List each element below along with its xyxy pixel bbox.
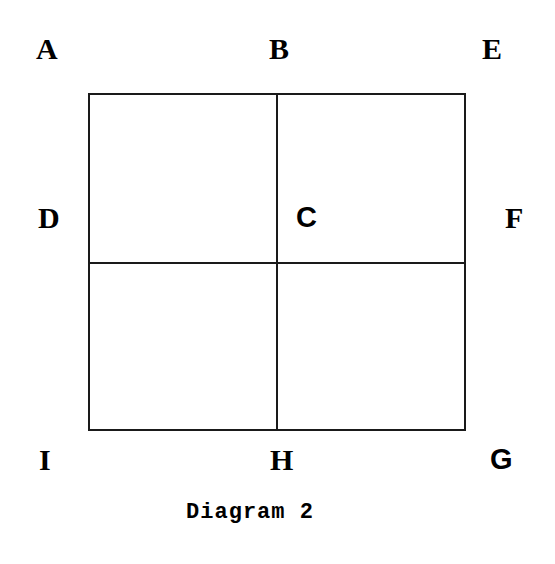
label-b: B <box>269 34 289 64</box>
label-g: G <box>490 445 513 474</box>
diagram-page: A B E D C F I H G Diagram 2 <box>0 0 555 564</box>
figure-caption: Diagram 2 <box>0 500 555 525</box>
horizontal-divider-line <box>88 262 466 264</box>
label-i: I <box>39 445 51 475</box>
square-figure <box>88 93 466 431</box>
label-a: A <box>36 34 58 64</box>
label-f: F <box>505 203 523 233</box>
label-c: C <box>296 203 317 232</box>
label-e: E <box>482 34 502 64</box>
label-h: H <box>270 445 293 475</box>
label-d: D <box>38 203 60 233</box>
